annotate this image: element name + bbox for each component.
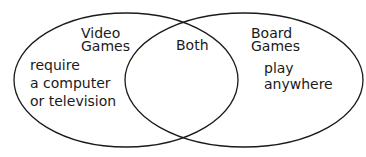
- video-games-item: require: [30, 56, 116, 74]
- video-games-item: or television: [30, 92, 116, 110]
- video-games-title-line2: Games: [81, 40, 130, 53]
- board-games-title: Board Games: [251, 27, 300, 53]
- video-games-item: a computer: [30, 74, 116, 92]
- board-games-items: play anywhere: [264, 60, 333, 92]
- both-label: Both: [176, 39, 209, 52]
- video-games-items: require a computer or television: [30, 56, 116, 110]
- video-games-title: Video Games: [81, 27, 130, 53]
- board-games-item: anywhere: [264, 76, 333, 92]
- board-games-item: play: [264, 60, 333, 76]
- board-games-title-line2: Games: [251, 40, 300, 53]
